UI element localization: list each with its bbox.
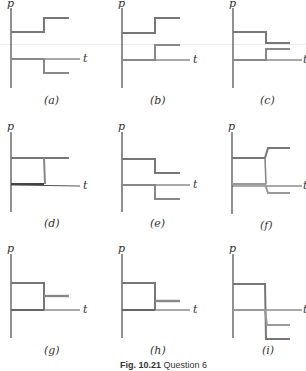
y-axis-label: p — [118, 0, 125, 10]
panel-g-graph — [0, 240, 100, 350]
y-axis-label: p — [7, 0, 14, 10]
y-axis-label: p — [7, 120, 14, 133]
y-axis-label: p — [229, 242, 236, 255]
y-axis-label: p — [7, 242, 14, 255]
panel-g: p t (g) — [0, 240, 100, 360]
x-axis-label: t — [83, 303, 87, 316]
x-axis-label: t — [303, 179, 306, 192]
panel-label: (c) — [260, 94, 275, 107]
panel-i-graph — [200, 240, 306, 350]
panel-label: (d) — [44, 217, 60, 230]
panel-h: p t (h) — [100, 240, 200, 360]
x-axis-label: t — [193, 178, 197, 191]
panel-label: (b) — [150, 94, 166, 107]
panel-label: (a) — [44, 94, 59, 107]
panel-d-graph — [0, 120, 100, 230]
panel-h-graph — [100, 240, 200, 350]
panel-b: p t (b) — [100, 0, 200, 120]
x-axis-label: t — [193, 53, 197, 66]
panel-f-graph — [200, 120, 306, 230]
y-axis-label: p — [229, 0, 236, 10]
figure-caption: Fig. 10.21 Question 6 — [120, 360, 207, 370]
panel-e: p t (e) — [100, 120, 200, 240]
caption-label: Fig. 10.21 — [120, 360, 161, 370]
panel-d: p t (d) — [0, 120, 100, 240]
x-axis-label: t — [303, 303, 306, 316]
panel-e-graph — [100, 120, 200, 230]
panel-label: (h) — [150, 344, 166, 357]
panel-label: (g) — [44, 344, 60, 357]
panel-label: (i) — [262, 344, 274, 357]
caption-text: Question 6 — [164, 360, 208, 370]
x-axis-label: t — [83, 179, 87, 192]
panel-f: p t (f) — [200, 120, 300, 240]
x-axis-label: t — [303, 53, 306, 66]
panel-label: (f) — [260, 219, 273, 232]
panel-a: p t (a) — [0, 0, 100, 120]
panel-label: (e) — [150, 217, 165, 230]
panel-i: p t (i) — [200, 240, 300, 360]
y-axis-label: p — [118, 242, 125, 255]
x-axis-label: t — [83, 52, 87, 65]
panel-c-graph — [200, 0, 306, 110]
y-axis-label: p — [228, 120, 235, 133]
x-axis-label: t — [193, 303, 197, 316]
panel-c: p t (c) — [200, 0, 300, 120]
y-axis-label: p — [118, 120, 125, 133]
